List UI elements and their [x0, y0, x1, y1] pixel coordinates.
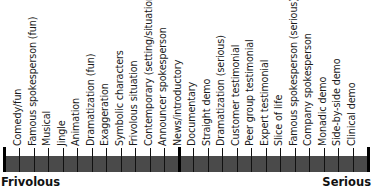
scale-tick: [106, 148, 107, 172]
label-announcer-spokesperson: Announcer spokesperson: [157, 27, 168, 146]
label-peer-group-testimonial: Peer group testimonial: [244, 39, 255, 146]
scale-tick: [19, 148, 20, 172]
scale-tick: [251, 148, 252, 172]
scale-tick: [164, 148, 165, 172]
scale-tick: [324, 148, 325, 172]
label-comedy-fun: Comedy/fun: [12, 89, 23, 146]
serious-end-label: Serious: [322, 175, 371, 189]
label-documentary: Documentary: [186, 82, 197, 146]
scale-tick: [63, 148, 64, 172]
scale-tick: [121, 148, 122, 172]
scale-tick: [338, 148, 339, 172]
label-clinical-demo: Clinical demo: [346, 82, 357, 146]
label-straight-demo: Straight demo: [201, 79, 212, 146]
label-customer-testimonial: Customer testimonial: [230, 45, 241, 146]
scale-labels: Comedy/fun Famous spokesperson (fun) Mus…: [0, 0, 373, 146]
scale-tick: [92, 148, 93, 172]
scale-tick: [135, 148, 136, 172]
label-contemporary: Contemporary (setting/situations): [143, 0, 154, 146]
scale-shaded-band: [3, 156, 370, 172]
label-side-by-side-demo: Side-by-side demo: [331, 59, 342, 146]
label-monadic-demo: Monadic demo: [317, 77, 328, 146]
scale-tick: [266, 148, 267, 172]
label-slice-of-life: Slice of life: [273, 95, 284, 146]
label-expert-testimonial: Expert testimonial: [259, 60, 270, 146]
label-animation: Animation: [70, 98, 81, 146]
label-musical: Musical: [41, 111, 52, 146]
label-dramatization-serious: Dramatization (serious): [215, 35, 226, 146]
continuum-scale-bar: [3, 147, 370, 172]
scale-tick: [280, 148, 281, 172]
scale-tick: [208, 148, 209, 172]
label-famous-spokesperson-serious: Famous spokesperson (serious): [288, 0, 299, 146]
label-jingle: Jingle: [56, 120, 67, 146]
scale-left-end: [3, 147, 6, 172]
scale-tick: [309, 148, 310, 172]
scale-top-band: [3, 147, 370, 156]
label-company-spokesperson: Company spokesperson: [302, 33, 313, 146]
scale-tick: [222, 148, 223, 172]
scale-tick: [237, 148, 238, 172]
scale-tick: [48, 148, 49, 172]
label-news-introductory: News/introductory: [172, 60, 183, 146]
label-symbolic-characters: Symbolic characters: [114, 50, 125, 146]
scale-tick: [34, 148, 35, 172]
scale-right-end: [367, 147, 370, 172]
scale-tick: [150, 148, 151, 172]
scale-midpoint-divider: [178, 147, 181, 172]
label-famous-spokesperson-fun: Famous spokesperson (fun): [27, 17, 38, 146]
label-exaggeration: Exaggeration: [99, 83, 110, 146]
scale-tick: [295, 148, 296, 172]
scale-tick: [193, 148, 194, 172]
label-dramatization-fun: Dramatization (fun): [85, 54, 96, 146]
frivolous-end-label: Frivolous: [1, 175, 60, 189]
label-frivolous-situation: Frivolous situation: [128, 60, 139, 146]
scale-tick: [353, 148, 354, 172]
scale-tick: [77, 148, 78, 172]
